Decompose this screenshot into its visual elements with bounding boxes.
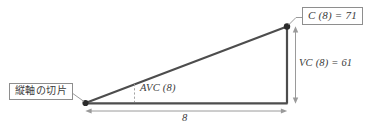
vertical-intercept-callout: 縦軸の切片	[9, 83, 73, 100]
figure-canvas: C (8) = 71 縦軸の切片 VC (8) = 61 AVC (8) 8	[0, 0, 367, 129]
cost-ray-line	[86, 27, 288, 104]
total-cost-callout: C (8) = 71	[302, 7, 363, 25]
average-variable-cost-label: AVC (8)	[140, 83, 176, 94]
variable-cost-label: VC (8) = 61	[299, 58, 352, 69]
quantity-label: 8	[182, 113, 187, 124]
vc-dimension-arrow	[293, 26, 298, 103]
total-cost-leader-line	[289, 18, 303, 26]
